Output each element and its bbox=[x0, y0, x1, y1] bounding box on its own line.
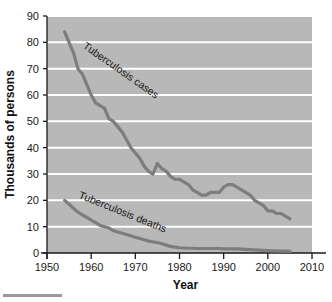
y-tick-label: 40 bbox=[27, 142, 39, 154]
y-axis-title: Thousands of persons bbox=[3, 70, 17, 199]
x-tick-label: 1980 bbox=[167, 261, 191, 273]
y-tick-label: 30 bbox=[27, 168, 39, 180]
y-tick-label: 80 bbox=[27, 36, 39, 48]
footer-rule bbox=[3, 294, 62, 297]
y-tick-label: 50 bbox=[27, 115, 39, 127]
y-tick-label: 10 bbox=[27, 221, 39, 233]
x-tick-label: 2010 bbox=[300, 261, 324, 273]
tuberculosis-trend-chart: 0102030405060708090 19501960197019801990… bbox=[0, 0, 332, 302]
x-tick-label: 1970 bbox=[123, 261, 147, 273]
y-tick-label: 90 bbox=[27, 10, 39, 22]
x-tick-label: 2000 bbox=[256, 261, 280, 273]
x-tick-label: 1950 bbox=[35, 261, 59, 273]
x-axis-title: Year bbox=[173, 278, 199, 292]
x-tick-label: 1960 bbox=[79, 261, 103, 273]
y-tick-label: 70 bbox=[27, 63, 39, 75]
y-tick-label: 60 bbox=[27, 89, 39, 101]
chart-svg: 0102030405060708090 19501960197019801990… bbox=[0, 0, 332, 302]
y-tick-label: 20 bbox=[27, 194, 39, 206]
x-tick-label: 1990 bbox=[211, 261, 235, 273]
y-tick-label: 0 bbox=[33, 247, 39, 259]
